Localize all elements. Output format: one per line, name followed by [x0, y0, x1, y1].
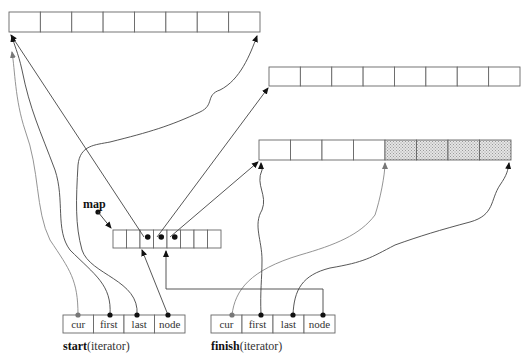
buffer-3-cell: [259, 140, 291, 160]
buffer-3: [259, 140, 511, 160]
finish-cur-dot: [229, 312, 234, 317]
buffer-3-cell: [417, 140, 449, 160]
map-node-dot: [158, 234, 164, 240]
buffer-2-cell: [363, 67, 394, 86]
buffer-2-cell: [300, 67, 331, 86]
finish-iterator: curfirstlastnode: [211, 315, 335, 333]
map-node-to-buffer-1: [11, 35, 144, 237]
map-array: [113, 230, 221, 248]
map-label: map: [83, 197, 106, 211]
buffer-3-cell: [448, 140, 480, 160]
start-cur-dot: [75, 312, 80, 317]
finish-node-wire: [166, 251, 323, 315]
start-field-label: first: [100, 318, 118, 330]
buffer-1: [9, 12, 260, 32]
start-first-dot: [107, 312, 112, 317]
buffer-1-cell: [9, 12, 40, 32]
buffer-3-cell: [322, 140, 354, 160]
start-iterator-label: start(iterator): [63, 339, 130, 353]
iterators: curfirstlastnodecurfirstlastnode: [63, 315, 335, 333]
buffer-2-cell: [269, 67, 300, 86]
finish-cur-wire: [232, 163, 385, 315]
buffer-1-cell: [103, 12, 134, 32]
start-field-label: node: [159, 318, 181, 330]
buffer-2-cell: [457, 67, 488, 86]
start-node-wire: [142, 250, 168, 315]
finish-last-wire: [293, 163, 509, 315]
deque-diagram: map curfirstlastnodecurfirstlastnode sta…: [0, 0, 527, 360]
finish-first-wire: [258, 163, 264, 315]
buffer-3-cell: [385, 140, 417, 160]
map-cells-cell: [194, 230, 208, 248]
finish-first-dot: [258, 312, 263, 317]
buffer-1-cell: [197, 12, 228, 32]
buffer-3-cell: [291, 140, 323, 160]
start-field-label: cur: [71, 318, 85, 330]
buffer-1-cell: [166, 12, 197, 32]
finish-field-label: first: [249, 318, 267, 330]
finish-last-dot: [290, 312, 295, 317]
map-node-dot: [145, 234, 151, 240]
map-pointer-arrow: [98, 212, 111, 228]
map-node-to-buffer-3: [170, 162, 258, 237]
start-name: start: [63, 339, 87, 353]
buffer-1-cell: [135, 12, 166, 32]
finish-name: finish: [211, 339, 240, 353]
buffer-2-cell: [332, 67, 363, 86]
finish-node-dot: [320, 312, 325, 317]
buffer-2: [269, 67, 520, 86]
map-cells-cell: [113, 230, 127, 248]
buffer-2-cell: [395, 67, 426, 86]
buffer-2-cell: [489, 67, 520, 86]
map-cells-cell: [127, 230, 141, 248]
start-first-wire: [12, 36, 110, 315]
buffer-3-cell: [480, 140, 512, 160]
map-cells: [113, 230, 221, 248]
start-node-dot: [165, 312, 170, 317]
finish-field-label: node: [309, 318, 331, 330]
finish-suffix: (iterator): [240, 339, 283, 353]
buffer-1-cell: [72, 12, 103, 32]
map-cells-cell: [181, 230, 195, 248]
start-last-dot: [134, 312, 139, 317]
map-cells-cell: [208, 230, 222, 248]
finish-iterator-label: finish(iterator): [211, 339, 282, 353]
buffers: [9, 12, 520, 160]
finish-field-label: last: [281, 318, 296, 330]
buffer-1-cell: [40, 12, 71, 32]
start-field-label: last: [132, 318, 147, 330]
start-cur-wire: [12, 52, 78, 315]
buffer-3-cell: [354, 140, 386, 160]
buffer-1-cell: [229, 12, 260, 32]
buffer-2-cell: [426, 67, 457, 86]
finish-field-label: cur: [219, 318, 233, 330]
map-node-to-buffer-2: [157, 88, 268, 237]
start-suffix: (iterator): [87, 339, 130, 353]
start-iterator: curfirstlastnode: [63, 315, 185, 333]
